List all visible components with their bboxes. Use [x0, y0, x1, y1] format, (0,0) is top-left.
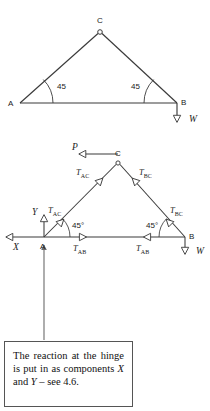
angle-label-a-1: 45	[57, 83, 66, 91]
tension-label-ac-upper: TAC	[76, 168, 89, 179]
tension-subscript: AB	[78, 249, 87, 255]
load-label-w-1: W	[189, 115, 197, 125]
tension-arrow-ab-right	[143, 233, 150, 240]
fbd-hinge-joint-c-icon	[116, 161, 120, 165]
force-label-y: Y	[32, 208, 37, 218]
angle-arc-a	[43, 80, 53, 103]
angle-label-b-1: 45	[131, 83, 140, 91]
note-var-x: X	[118, 363, 124, 374]
member-ac	[20, 34, 98, 104]
tension-subscript: AC	[81, 173, 90, 179]
tension-label-ac-lower: TAC	[48, 206, 61, 217]
member-cb	[102, 34, 177, 104]
reaction-note-box: The reaction at the hinge is put in as c…	[4, 341, 133, 407]
fbd-angle-label-a: 45°	[72, 222, 84, 230]
vertex-label-a-1: A	[8, 100, 13, 108]
fbd-vertex-label-b: B	[189, 233, 194, 241]
diagram-2-free-body	[6, 154, 185, 254]
note-line-3b: and	[13, 376, 28, 387]
tension-label-bc-upper: TBC	[139, 168, 152, 179]
angle-arc-b	[144, 80, 154, 103]
note-line-1: The reaction at the	[13, 350, 96, 361]
tension-subscript: AC	[53, 211, 62, 217]
fbd-angle-label-b: 45°	[146, 222, 158, 230]
tension-label-ab-right: TAB	[136, 244, 149, 255]
tension-label-ab-left: TAB	[73, 244, 86, 255]
tension-subscript: BC	[144, 173, 152, 179]
force-label-p: P	[72, 143, 78, 153]
fbd-vertex-label-c: C	[115, 150, 121, 158]
force-label-x: X	[13, 243, 19, 253]
tension-label-bc-lower: TBC	[170, 206, 183, 217]
fbd-angle-arc-b	[159, 219, 167, 237]
note-line-4b: – see 4.6.	[37, 376, 79, 387]
hinge-joint-c-icon	[98, 30, 103, 35]
tension-subscript: BC	[175, 211, 183, 217]
force-label-w-2: W	[196, 247, 204, 257]
tension-arrow-ab-left	[79, 233, 86, 240]
fbd-vertex-label-a: A	[40, 243, 45, 251]
vertex-label-b-1: B	[181, 99, 186, 107]
note-line-3a: components	[64, 363, 118, 374]
vertex-label-c-1: C	[97, 17, 103, 25]
reaction-note-text: The reaction at the hinge is put in as c…	[5, 342, 132, 388]
tension-subscript: AB	[141, 249, 150, 255]
diagram-1-truss	[20, 30, 177, 122]
